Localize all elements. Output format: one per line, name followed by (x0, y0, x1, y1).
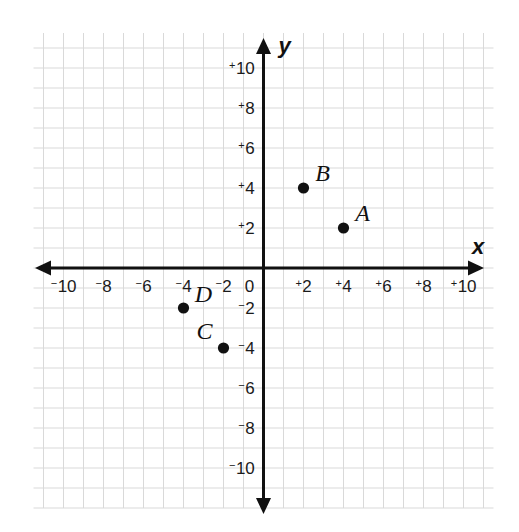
x-axis-tick--8: −8 (95, 278, 111, 295)
point-label-a: A (355, 201, 370, 225)
data-point-a (338, 222, 349, 233)
x-axis-tick-8: +8 (415, 278, 431, 295)
plot-area (0, 0, 519, 532)
y-axis-tick--2: −2 (238, 300, 254, 317)
x-axis-tick-4: +4 (335, 278, 351, 295)
point-label-d: D (195, 282, 212, 306)
x-axis-tick-10: +10 (451, 278, 476, 295)
point-label-b: B (315, 161, 330, 185)
x-axis-tick--4: −4 (175, 278, 191, 295)
x-axis-label: x (472, 236, 484, 258)
y-axis-tick--4: −4 (238, 340, 254, 357)
y-axis-tick-8: +8 (238, 100, 254, 117)
coordinate-plane-graph: −10−8−6−4−20+2+4+6+8+10+10+8+6+4+2−2−4−6… (0, 0, 519, 532)
y-axis-tick-10: +10 (229, 60, 254, 77)
y-axis-tick--10: −10 (229, 460, 254, 477)
x-axis-tick-6: +6 (375, 278, 391, 295)
data-point-b (298, 182, 309, 193)
x-axis-tick--10: −10 (51, 278, 76, 295)
y-axis-tick--6: −6 (238, 380, 254, 397)
x-axis-tick-2: +2 (295, 278, 311, 295)
x-axis-tick-0: 0 (245, 278, 254, 295)
x-axis-tick--2: −2 (215, 278, 231, 295)
data-point-c (218, 342, 229, 353)
y-axis-tick-4: +4 (238, 180, 254, 197)
point-label-c: C (196, 319, 212, 343)
y-axis-tick-6: +6 (238, 140, 254, 157)
axes (35, 38, 484, 514)
y-axis-tick-2: +2 (238, 220, 254, 237)
data-point-d (178, 302, 189, 313)
y-axis-tick--8: −8 (238, 420, 254, 437)
y-axis-label: y (278, 35, 290, 57)
x-axis-tick--6: −6 (135, 278, 151, 295)
